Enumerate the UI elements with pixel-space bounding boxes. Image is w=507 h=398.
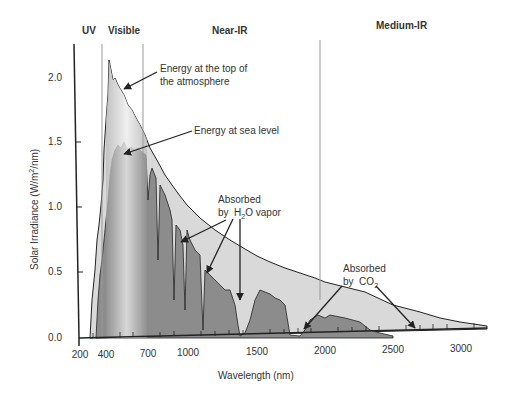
x-tick-1000: 1000 [168, 347, 208, 358]
band-label-visible: Visible [108, 25, 140, 36]
annotation-co2: Absorbedby CO2 [343, 262, 386, 292]
x-tick-400: 400 [86, 349, 126, 360]
y-tick-2-0: 2.0 [32, 72, 62, 83]
y-axis-title: Solar Irradiance (W/m2/nm) [28, 149, 40, 270]
x-tick-2000: 2000 [305, 345, 345, 356]
visible-highlight [106, 60, 147, 338]
annotation-sea-level: Energy at sea level [194, 124, 279, 137]
arrow-toa [124, 72, 157, 89]
x-tick-700: 700 [128, 348, 168, 359]
x-axis-title: Wavelength (nm) [218, 370, 294, 381]
band-label-medium-ir: Medium-IR [376, 20, 427, 31]
annotation-top-of-atmosphere: Energy at the top ofthe atmosphere [160, 62, 247, 88]
band-label-near-ir: Near-IR [212, 25, 248, 36]
y-tick-0-0: 0.0 [32, 332, 62, 343]
x-tick-2500: 2500 [373, 344, 413, 355]
annotation-h2o-vapor: Absorbedby H2O vapor [218, 193, 281, 223]
x-tick-3000: 3000 [441, 343, 481, 354]
band-label-uv: UV [82, 25, 96, 36]
y-tick-1-5: 1.5 [32, 136, 62, 147]
x-tick-1500: 1500 [237, 346, 277, 357]
y-axis [74, 44, 79, 338]
